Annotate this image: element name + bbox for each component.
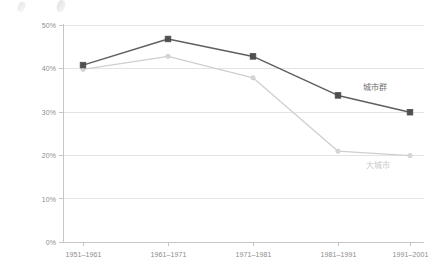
y-tick-label-10: 10% xyxy=(30,196,56,203)
y-tick-label-50: 50% xyxy=(30,22,56,29)
x-tick-label-3: 1971–1981 xyxy=(223,251,284,258)
x-tick-marks xyxy=(84,243,411,247)
data-point xyxy=(166,54,170,58)
x-tick-label-1: 1951–1961 xyxy=(53,251,114,258)
data-point xyxy=(250,54,256,60)
plot-area xyxy=(0,0,447,274)
data-point xyxy=(408,154,412,158)
x-tick-label-2: 1961–1971 xyxy=(138,251,199,258)
y-tick-marks xyxy=(59,26,63,243)
data-point xyxy=(165,36,171,42)
series-label-light: 大城市 xyxy=(366,162,390,170)
series-line-light xyxy=(83,56,410,155)
series-markers-light xyxy=(81,54,412,157)
line-chart-figure: 50% 40% 30% 20% 10% 0% 1951–1961 1961–19… xyxy=(0,0,447,274)
x-tick-label-4: 1981–1991 xyxy=(308,251,369,258)
data-point xyxy=(407,109,413,115)
data-point xyxy=(336,149,340,153)
x-tick-label-5: 1991–2001 xyxy=(380,251,441,258)
y-tick-label-30: 30% xyxy=(30,109,56,116)
data-point xyxy=(251,76,255,80)
y-tick-label-0: 0% xyxy=(30,239,56,246)
y-tick-label-20: 20% xyxy=(30,152,56,159)
y-tick-label-40: 40% xyxy=(30,65,56,72)
gridlines xyxy=(63,26,424,199)
data-point xyxy=(80,62,86,68)
data-point xyxy=(335,93,341,99)
series-label-dark: 城市群 xyxy=(363,84,387,92)
